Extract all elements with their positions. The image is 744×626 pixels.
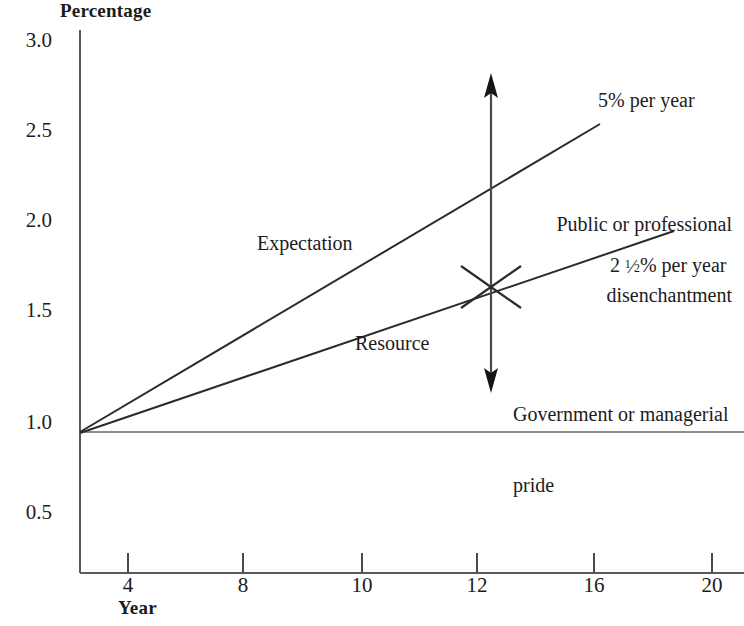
x-tick-label-16: 16	[574, 573, 614, 598]
disenchantment-line-2: disenchantment	[532, 284, 732, 308]
pride-line-1: Government or managerial	[513, 403, 743, 427]
x-tick-marks	[128, 553, 712, 573]
x-tick-label-4: 4	[108, 573, 148, 598]
y-tick-label-3-0: 3.0	[6, 28, 52, 53]
y-tick-label-0-5: 0.5	[6, 500, 52, 525]
y-tick-label-2-0: 2.0	[6, 208, 52, 233]
y-tick-label-2-5: 2.5	[6, 118, 52, 143]
y-tick-label-1-5: 1.5	[6, 298, 52, 323]
y-axis-title: Percentage	[60, 0, 151, 22]
disenchantment-line-1: Public or professional	[532, 213, 732, 237]
x-tick-label-8: 8	[223, 573, 263, 598]
y-tick-label-1-0: 1.0	[6, 410, 52, 435]
gap-double-arrow	[484, 73, 498, 393]
pride-annotation: Government or managerial pride	[513, 356, 743, 545]
x-tick-label-12: 12	[457, 573, 497, 598]
x-axis-title: Year	[118, 597, 157, 619]
x-tick-label-10: 10	[342, 573, 382, 598]
x-tick-label-20: 20	[692, 573, 732, 598]
expectation-series-label: Expectation	[257, 232, 353, 256]
chart-figure: Percentage Year 3.0 2.5 2.0 1.5 1.0 0.5 …	[0, 0, 744, 626]
disenchantment-annotation: Public or professional disenchantment	[532, 166, 732, 355]
resource-series-label: Resource	[355, 332, 429, 356]
pride-line-2: pride	[513, 474, 743, 498]
expectation-rate-label: 5% per year	[598, 89, 695, 113]
